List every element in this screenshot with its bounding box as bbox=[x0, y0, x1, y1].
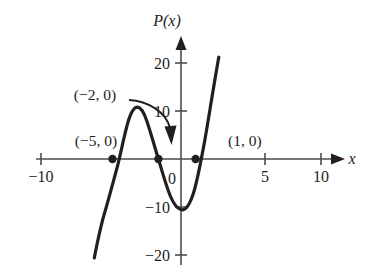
polynomial-graph-figure: P(x) x −10 0 5 10 20 10 −10 −20 (−5, 0) … bbox=[0, 0, 384, 277]
x-axis-label: x bbox=[347, 150, 355, 167]
root-dot-neg2 bbox=[154, 155, 162, 163]
x-tick-label-neg10: −10 bbox=[28, 168, 53, 185]
graph-canvas: P(x) x −10 0 5 10 20 10 −10 −20 (−5, 0) … bbox=[0, 0, 384, 277]
y-tick-label-neg10: −10 bbox=[145, 199, 170, 216]
y-tick-label-10: 10 bbox=[154, 103, 170, 120]
y-axis bbox=[175, 36, 187, 265]
x-axis-arrowhead bbox=[331, 154, 345, 165]
point-label-1: (1, 0) bbox=[228, 132, 262, 150]
x-tick-label-zero: 0 bbox=[168, 170, 176, 187]
x-tick-label-10: 10 bbox=[313, 168, 329, 185]
root-dot-1 bbox=[191, 155, 199, 163]
y-axis-label: P(x) bbox=[152, 12, 181, 30]
x-tick-label-5: 5 bbox=[261, 168, 269, 185]
y-tick-label-20: 20 bbox=[154, 55, 170, 72]
x-axis bbox=[36, 153, 345, 165]
root-dot-neg5 bbox=[108, 155, 116, 163]
point-label-neg5: (−5, 0) bbox=[75, 132, 117, 150]
y-tick-label-neg20: −20 bbox=[145, 247, 170, 264]
y-axis-arrowhead bbox=[176, 36, 187, 50]
point-label-neg2: (−2, 0) bbox=[74, 86, 116, 104]
